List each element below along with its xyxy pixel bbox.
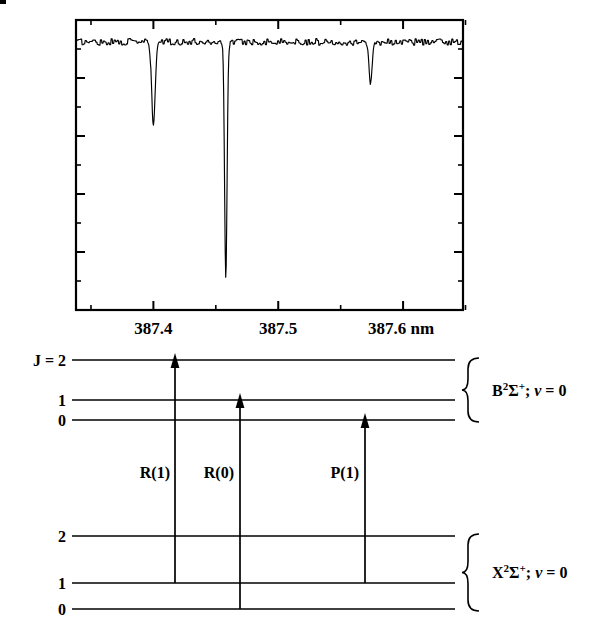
- spectrum-panel: 387.4387.5387.6 nm: [76, 20, 465, 338]
- x-axis-tick-labels: 387.4387.5387.6 nm: [134, 319, 434, 338]
- lower-level-label-J0: 0: [58, 601, 66, 618]
- lower-state-separator: ;: [526, 564, 535, 581]
- spectrum-trace: [76, 39, 463, 278]
- x-tick-label: 387.5: [259, 319, 297, 338]
- upper-level-label-J2: J = 2: [33, 352, 66, 369]
- plot-frame: [76, 20, 463, 310]
- lower-state-term-sigma: Σ: [509, 564, 519, 581]
- transition-label-R1: R(1): [140, 464, 170, 482]
- transition-label-R0: R(0): [204, 464, 234, 482]
- figure-canvas: 387.4387.5387.6 nm J = 2 1 0 2 1 0: [0, 0, 613, 634]
- lower-state-brace: [462, 534, 479, 611]
- upper-state-term-base: B: [492, 382, 503, 399]
- figure-container: 387.4387.5387.6 nm J = 2 1 0 2 1 0: [0, 0, 613, 634]
- transition-arrow-R0: [236, 393, 245, 609]
- energy-level-diagram: J = 2 1 0 2 1 0: [33, 352, 568, 618]
- upper-state-levels: [72, 360, 455, 420]
- transition-arrows: [171, 353, 370, 609]
- upper-level-label-J0: 0: [58, 412, 66, 429]
- lower-level-label-J2: 2: [58, 528, 66, 545]
- upper-state-brace: [462, 358, 479, 422]
- lower-level-label-J1: 1: [58, 575, 66, 592]
- crop-mark: [0, 0, 6, 4]
- lower-state-term-base: X: [492, 564, 504, 581]
- transition-arrow-P1: [361, 413, 370, 583]
- upper-state-separator: ;: [525, 382, 534, 399]
- upper-state-vibrational-value: 0: [558, 382, 566, 399]
- lower-state-equals: =: [542, 564, 559, 581]
- upper-state-term-sigma: Σ: [508, 382, 518, 399]
- lower-state-levels: [72, 536, 455, 609]
- transition-label-P1: P(1): [331, 464, 359, 482]
- x-tick-label: 387.4: [134, 319, 173, 338]
- lower-state-label: X2Σ+; v = 0: [492, 562, 567, 581]
- axis-ticks: [76, 20, 465, 310]
- upper-state-label: B2Σ+; v = 0: [492, 380, 566, 399]
- transition-arrow-R1: [171, 353, 180, 583]
- upper-state-equals: =: [541, 382, 558, 399]
- lower-state-vibrational-value: 0: [559, 564, 567, 581]
- x-tick-label: 387.6 nm: [368, 319, 434, 338]
- upper-level-label-J1: 1: [58, 392, 66, 409]
